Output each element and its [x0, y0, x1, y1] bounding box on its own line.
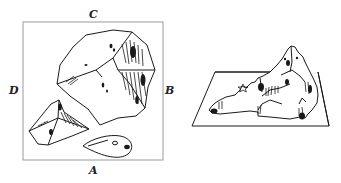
terrain-diagram [0, 0, 341, 183]
map-frame [23, 22, 163, 160]
teardrop-rock-plan [83, 135, 132, 157]
small-rock-plan [29, 100, 89, 145]
large-rock-plan [57, 30, 155, 125]
perspective-view [192, 46, 329, 126]
mountain-outline [209, 46, 318, 119]
plan-view [23, 22, 163, 160]
